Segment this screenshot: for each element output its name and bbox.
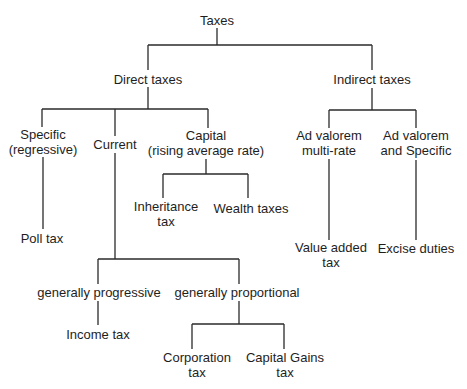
node-inheritance-tax: Inheritance tax	[134, 199, 198, 229]
node-generally-progressive: generally progressive	[37, 285, 161, 300]
node-direct-taxes-label: Direct taxes	[114, 72, 183, 87]
node-capital-gains-line2: tax	[246, 365, 324, 380]
node-ad-specific-line2: and Specific	[381, 143, 452, 158]
node-capital-gains-tax: Capital Gains tax	[246, 350, 324, 380]
node-proportional-label: generally proportional	[174, 285, 299, 300]
node-excise-duties: Excise duties	[378, 241, 455, 256]
node-taxes: Taxes	[200, 13, 234, 28]
node-income-tax: Income tax	[66, 327, 130, 342]
node-corporation-line1: Corporation	[163, 350, 231, 365]
node-indirect-taxes-label: Indirect taxes	[333, 72, 410, 87]
node-poll-tax-label: Poll tax	[21, 231, 64, 246]
node-vat-line2: tax	[295, 255, 367, 270]
node-vat-line1: Value added	[295, 240, 367, 255]
node-excise-label: Excise duties	[378, 241, 455, 256]
node-corporation-line2: tax	[163, 365, 231, 380]
node-capital-line2: (rising average rate)	[148, 143, 264, 158]
node-ad-valorem-multi-rate: Ad valorem multi-rate	[296, 128, 362, 158]
node-inheritance-line2: tax	[134, 214, 198, 229]
node-multi-rate-line1: Ad valorem	[296, 128, 362, 143]
node-indirect-taxes: Indirect taxes	[333, 72, 410, 87]
node-corporation-tax: Corporation tax	[163, 350, 231, 380]
node-current: Current	[93, 137, 136, 152]
node-specific-line2: (regressive)	[9, 142, 78, 157]
node-generally-proportional: generally proportional	[174, 285, 299, 300]
node-ad-specific-line1: Ad valorem	[381, 128, 452, 143]
node-specific: Specific (regressive)	[9, 127, 78, 157]
node-capital: Capital (rising average rate)	[148, 128, 264, 158]
node-taxes-label: Taxes	[200, 13, 234, 28]
node-income-tax-label: Income tax	[66, 327, 130, 342]
node-capital-gains-line1: Capital Gains	[246, 350, 324, 365]
node-capital-line1: Capital	[148, 128, 264, 143]
node-inheritance-line1: Inheritance	[134, 199, 198, 214]
node-value-added-tax: Value added tax	[295, 240, 367, 270]
node-wealth-label: Wealth taxes	[214, 201, 289, 216]
node-multi-rate-line2: multi-rate	[296, 143, 362, 158]
node-progressive-label: generally progressive	[37, 285, 161, 300]
node-specific-line1: Specific	[9, 127, 78, 142]
node-poll-tax: Poll tax	[21, 231, 64, 246]
node-wealth-taxes: Wealth taxes	[214, 201, 289, 216]
node-direct-taxes: Direct taxes	[114, 72, 183, 87]
node-current-label: Current	[93, 137, 136, 152]
node-ad-valorem-specific: Ad valorem and Specific	[381, 128, 452, 158]
